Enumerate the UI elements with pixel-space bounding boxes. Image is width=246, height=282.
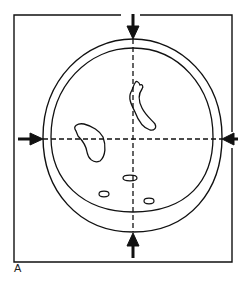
arrow-left — [18, 133, 43, 145]
arrow-right — [222, 133, 238, 145]
lesion-left-large — [75, 124, 105, 162]
lesion-small-center — [123, 175, 137, 181]
panel-label: A — [14, 262, 21, 274]
arrow-top — [127, 14, 139, 39]
lesion-right-curved — [130, 82, 156, 131]
head-cross-section-diagram — [0, 0, 246, 282]
lesion-small-right — [144, 198, 154, 204]
lesion-small-left — [99, 191, 109, 197]
arrow-bottom — [127, 233, 139, 258]
